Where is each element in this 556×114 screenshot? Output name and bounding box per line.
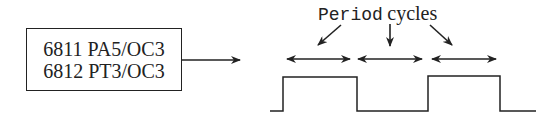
square-waveform <box>270 76 536 111</box>
diagram-graphics <box>0 0 556 114</box>
pointer-arrow-right-icon <box>430 25 452 45</box>
pointer-arrow-left-icon <box>318 25 341 45</box>
